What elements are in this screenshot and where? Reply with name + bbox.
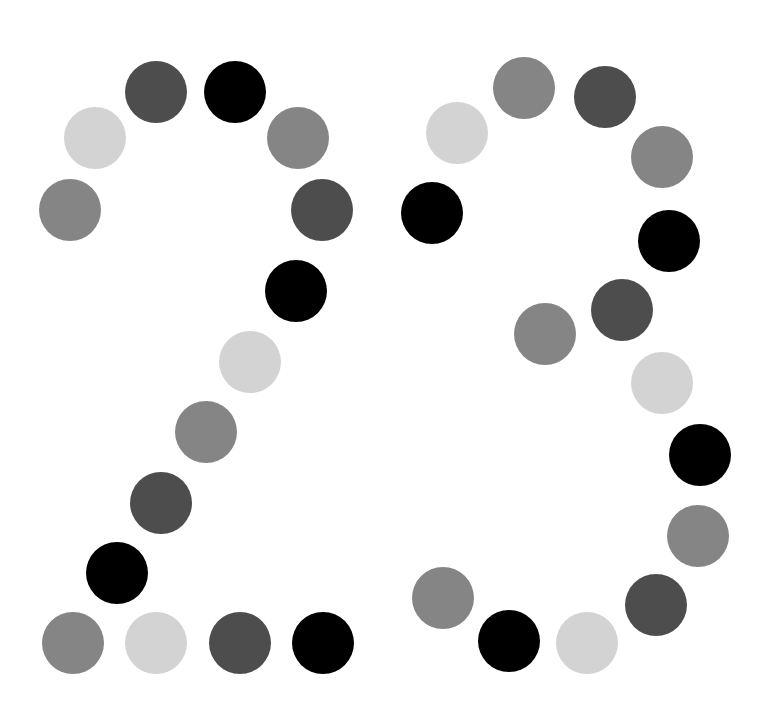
dot-mid	[493, 57, 555, 119]
dot-mid	[267, 107, 329, 169]
dot-mid	[667, 505, 729, 567]
dot-mid	[39, 179, 101, 241]
dot-light	[556, 612, 618, 674]
dot-light	[219, 331, 281, 393]
dot-black	[86, 542, 148, 604]
dot-light	[64, 107, 126, 169]
dot-black	[204, 61, 266, 123]
dot-dark	[209, 612, 271, 674]
dot-mid	[412, 567, 474, 629]
dot-dark	[291, 179, 353, 241]
dot-dark	[574, 66, 636, 128]
dot-dark	[125, 61, 187, 123]
dot-dark	[591, 279, 653, 341]
dot-number-figure: 23	[0, 0, 781, 724]
dot-mid	[175, 401, 237, 463]
dot-dark	[130, 472, 192, 534]
dot-light	[125, 612, 187, 674]
dot-light	[426, 102, 488, 164]
dot-black	[638, 210, 700, 272]
dot-mid	[631, 126, 693, 188]
dot-light	[631, 352, 693, 414]
dot-mid	[42, 612, 104, 674]
dot-black	[401, 182, 463, 244]
dot-black	[478, 610, 540, 672]
dot-black	[669, 424, 731, 486]
dot-mid	[514, 303, 576, 365]
dot-dark	[625, 574, 687, 636]
dot-black	[265, 260, 327, 322]
dot-black	[292, 612, 354, 674]
